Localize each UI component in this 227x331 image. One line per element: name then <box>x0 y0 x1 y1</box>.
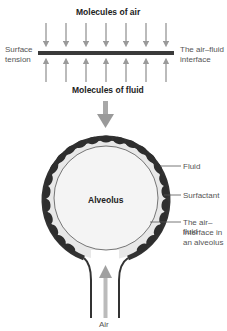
transition-arrow-icon <box>97 101 114 128</box>
air-molecule-arrows <box>46 23 166 44</box>
label-fluid: Fluid <box>183 162 200 171</box>
label-surfactant: Surfactant <box>183 191 219 200</box>
label-molecules-of-fluid: Molecules of fluid <box>72 86 144 95</box>
label-alveolar-interface-2: interface in <box>183 228 222 237</box>
label-surface-tension-2: tension <box>5 55 31 64</box>
label-surface-tension-1: Surface <box>5 45 33 54</box>
label-alveolus: Alveolus <box>88 196 123 205</box>
label-air-fluid-interface-1: The air–fluid <box>180 45 224 54</box>
fluid-molecule-arrows <box>46 61 166 82</box>
label-air-fluid-interface-2: interface <box>180 55 211 64</box>
interface-bar <box>38 51 174 55</box>
label-air: Air <box>99 320 109 329</box>
label-molecules-of-air: Molecules of air <box>76 8 140 17</box>
label-alveolar-interface-3: an alveolus <box>183 238 223 247</box>
